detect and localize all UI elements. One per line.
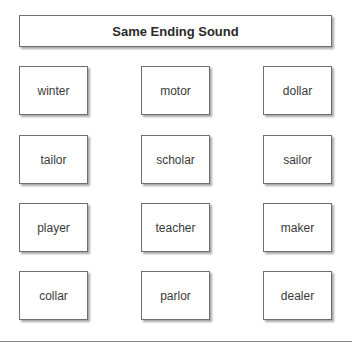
word-card: dollar [263, 66, 332, 115]
word-card: winter [19, 66, 88, 115]
word-card: motor [141, 66, 210, 115]
word-label: player [37, 221, 70, 235]
word-card: player [19, 203, 88, 252]
word-label: maker [281, 221, 314, 235]
word-card: teacher [141, 203, 210, 252]
word-card: scholar [141, 135, 210, 184]
word-label: teacher [155, 221, 195, 235]
word-label: tailor [40, 153, 66, 167]
worksheet-title: Same Ending Sound [19, 15, 332, 47]
word-label: parlor [160, 289, 191, 303]
word-card: sailor [263, 135, 332, 184]
word-card: tailor [19, 135, 88, 184]
word-label: sailor [283, 153, 312, 167]
word-label: dealer [281, 289, 314, 303]
word-card: parlor [141, 271, 210, 320]
word-card: dealer [263, 271, 332, 320]
word-label: winter [37, 84, 69, 98]
title-text: Same Ending Sound [112, 24, 238, 39]
bottom-divider [0, 341, 352, 342]
word-label: dollar [283, 84, 312, 98]
word-label: motor [160, 84, 191, 98]
word-card: collar [19, 271, 88, 320]
word-label: scholar [156, 153, 195, 167]
word-label: collar [39, 289, 68, 303]
word-card: maker [263, 203, 332, 252]
